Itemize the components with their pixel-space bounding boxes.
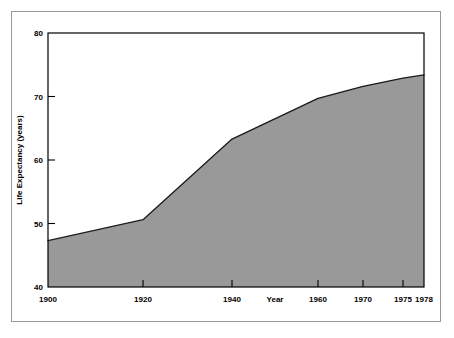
x-tick-label: 1900	[39, 295, 57, 304]
y-tick-label: 60	[34, 156, 43, 165]
y-axis-tick-labels: 8070605040	[34, 29, 43, 292]
chart-figure: 8070605040 1900192019401960197019751978 …	[0, 0, 454, 338]
x-tick-label: 1940	[223, 295, 241, 304]
y-tick-label: 80	[34, 29, 43, 38]
x-tick-label: 1970	[354, 295, 372, 304]
y-tick-label: 40	[34, 283, 43, 292]
y-axis-title: Life Expectancy (years)	[15, 115, 24, 205]
x-tick-label: 1978	[415, 295, 433, 304]
x-tick-label: 1960	[309, 295, 327, 304]
y-tick-label: 50	[34, 220, 43, 229]
x-axis-title: Year	[267, 295, 284, 304]
x-axis-tick-labels: 1900192019401960197019751978	[39, 295, 433, 304]
y-tick-label: 70	[34, 93, 43, 102]
x-tick-label: 1975	[394, 295, 412, 304]
life-expectancy-area-chart: 8070605040 1900192019401960197019751978 …	[0, 0, 454, 338]
x-tick-label: 1920	[134, 295, 152, 304]
